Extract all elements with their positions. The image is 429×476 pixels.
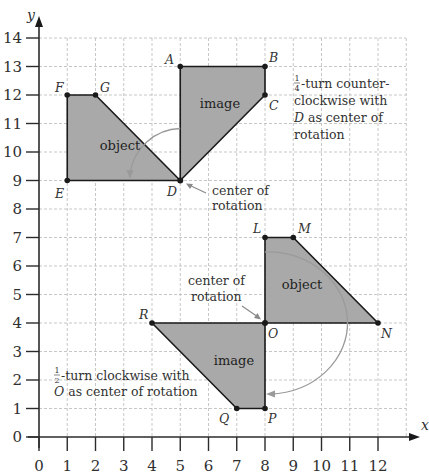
- y-ticks: [26, 38, 39, 437]
- label-R: R: [138, 307, 148, 322]
- rotation-1-note: 1 4 -turn counter- clockwise with D as c…: [293, 74, 390, 142]
- x-tick-1: 1: [62, 457, 72, 475]
- y-axis-label: y: [26, 7, 36, 23]
- rotation-2-note: 1 2 -turn clockwise with O as center of …: [54, 366, 198, 399]
- label-N: N: [380, 326, 393, 341]
- center-2-label-line2: rotation: [191, 289, 242, 304]
- vertex-C: [262, 92, 268, 98]
- center-2-pointer-arrow-icon: [254, 313, 261, 320]
- vertex-R: [149, 320, 155, 326]
- label-O: O: [268, 326, 278, 341]
- object-2-label: object: [282, 277, 323, 292]
- x-axis-arrow-icon: [409, 433, 420, 441]
- center-2-pointer: [242, 306, 258, 317]
- vertex-L: [262, 235, 268, 241]
- note-2-line2: O as center of rotation: [54, 384, 198, 399]
- y-tick-7: 7: [12, 229, 22, 247]
- y-tick-14: 14: [3, 29, 22, 47]
- x-tick-labels: 0 1 2 3 4 5 6 7 8 9 10 11 12: [34, 457, 387, 475]
- center-1-label-line2: rotation: [212, 198, 263, 213]
- label-D: D: [166, 184, 177, 199]
- image-2-label: image: [214, 353, 255, 368]
- vertex-G: [93, 92, 99, 98]
- x-tick-6: 6: [204, 457, 214, 475]
- vertex-E: [64, 178, 70, 184]
- x-tick-12: 12: [368, 457, 387, 475]
- x-ticks: [39, 437, 378, 451]
- label-L: L: [252, 221, 261, 236]
- note-1-line2: clockwise with: [294, 93, 387, 108]
- y-tick-2: 2: [12, 371, 22, 389]
- label-E: E: [54, 186, 64, 201]
- y-tick-10: 10: [3, 143, 22, 161]
- label-Q: Q: [219, 411, 229, 426]
- vertex-Q: [234, 406, 240, 412]
- x-tick-2: 2: [91, 457, 101, 475]
- vertex-N: [375, 320, 381, 326]
- y-tick-0: 0: [12, 428, 22, 446]
- center-2-label-line1: center of: [188, 273, 246, 288]
- vertex-M: [290, 235, 296, 241]
- note-2-line1: -turn clockwise with: [61, 368, 190, 383]
- vertex-A: [177, 64, 183, 70]
- y-axis-arrow-icon: [35, 16, 43, 27]
- center-1-label-line1: center of: [212, 183, 270, 198]
- label-G: G: [100, 80, 110, 95]
- vertex-F: [64, 92, 70, 98]
- x-tick-9: 9: [288, 457, 298, 475]
- note-1-line3: D as center of: [293, 110, 384, 125]
- label-M: M: [297, 221, 312, 236]
- x-tick-5: 5: [175, 457, 185, 475]
- y-tick-3: 3: [12, 343, 22, 361]
- label-B: B: [268, 50, 278, 65]
- y-tick-labels: 0 1 2 3 4 5 6 7 8 9 10 11 12 13 14: [3, 29, 22, 446]
- vertex-B: [262, 64, 268, 70]
- label-A: A: [164, 52, 174, 67]
- note-1-line4: rotation: [294, 127, 345, 142]
- x-tick-8: 8: [260, 457, 270, 475]
- x-tick-7: 7: [232, 457, 242, 475]
- label-F: F: [54, 80, 65, 95]
- rotation-diagram: y x 0 1 2 3 4 5 6 7 8 9 10 11 12 13 14: [0, 0, 429, 476]
- y-tick-13: 13: [3, 58, 22, 76]
- image-1-label: image: [200, 96, 241, 111]
- x-tick-11: 11: [340, 457, 359, 475]
- y-tick-12: 12: [3, 86, 22, 104]
- label-P: P: [267, 411, 277, 426]
- object-1-label: object: [100, 138, 141, 153]
- y-tick-1: 1: [12, 400, 22, 418]
- y-tick-11: 11: [3, 115, 22, 133]
- note-1-frac-num: 1: [294, 74, 299, 83]
- x-tick-0: 0: [34, 457, 44, 475]
- x-tick-10: 10: [312, 457, 331, 475]
- x-tick-3: 3: [119, 457, 129, 475]
- image-1-shape: [180, 67, 265, 181]
- note-1-frac-den: 4: [294, 84, 299, 93]
- vertex-D: [177, 178, 183, 184]
- note-2-frac-num: 1: [54, 366, 59, 375]
- x-axis-label: x: [421, 417, 429, 433]
- vertex-P: [262, 406, 268, 412]
- x-tick-4: 4: [147, 457, 157, 475]
- note-1-line1: -turn counter-: [301, 76, 390, 91]
- y-tick-4: 4: [12, 314, 22, 332]
- y-tick-8: 8: [12, 200, 22, 218]
- y-tick-5: 5: [12, 286, 22, 304]
- rotation-2-arrowhead-icon: [266, 391, 275, 398]
- y-tick-6: 6: [12, 257, 22, 275]
- label-C: C: [269, 98, 279, 113]
- y-tick-9: 9: [12, 172, 22, 190]
